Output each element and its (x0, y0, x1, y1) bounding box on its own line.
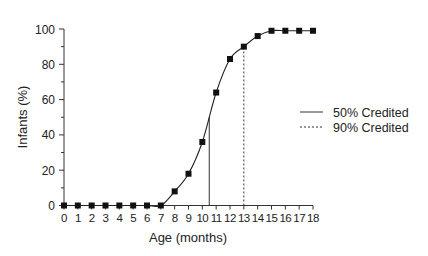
y-tick-label: 80 (42, 58, 56, 72)
x-tick-label: 0 (61, 212, 67, 224)
x-tick-label: 16 (279, 212, 291, 224)
data-marker (227, 56, 233, 62)
data-marker (116, 203, 122, 209)
y-tick-label: 60 (42, 93, 56, 107)
reference-lines (209, 47, 244, 206)
data-marker (158, 203, 164, 209)
data-marker (172, 188, 178, 194)
legend-label: 50% Credited (333, 106, 409, 120)
data-marker (89, 203, 95, 209)
y-tick-label: 20 (42, 164, 56, 178)
legend-label: 90% Credited (333, 121, 409, 135)
data-marker (310, 28, 316, 34)
x-tick-label: 11 (211, 212, 222, 224)
data-marker (144, 203, 150, 209)
data-marker (130, 203, 136, 209)
x-tick-label: 12 (224, 212, 236, 224)
data-marker (75, 203, 81, 209)
x-tick-label: 13 (238, 212, 250, 224)
x-tick-label: 4 (116, 212, 123, 224)
x-axis-label: Age (months) (149, 230, 227, 245)
data-marker (241, 44, 247, 50)
data-marker (296, 28, 302, 34)
y-tick-label: 40 (42, 128, 56, 142)
x-tick-label: 6 (144, 212, 150, 224)
data-marker (103, 203, 109, 209)
x-tick-label: 2 (89, 212, 95, 224)
chart: 0204060801000123456789101112131415161718… (0, 0, 428, 256)
data-series (61, 28, 316, 209)
x-tick-label: 5 (130, 212, 136, 224)
data-marker (255, 33, 261, 39)
data-marker (282, 28, 288, 34)
x-tick-label: 3 (103, 212, 109, 224)
x-tick-label: 17 (293, 212, 305, 224)
data-marker (199, 139, 205, 145)
x-tick-label: 9 (186, 212, 192, 224)
data-marker (61, 203, 67, 209)
data-marker (269, 28, 275, 34)
x-tick-label: 8 (172, 212, 178, 224)
x-tick-label: 15 (266, 212, 278, 224)
x-tick-label: 1 (75, 212, 81, 224)
x-tick-label: 14 (252, 212, 265, 224)
x-tick-label: 7 (158, 212, 164, 224)
series-line (64, 30, 313, 206)
y-axis-label: Infants (%) (15, 86, 30, 149)
y-tick-label: 100 (35, 23, 55, 37)
x-tick-label: 18 (307, 212, 319, 224)
x-tick-label: 10 (196, 212, 208, 224)
data-marker (186, 171, 192, 177)
y-tick-label: 0 (48, 199, 55, 213)
legend: 50% Credited90% Credited (300, 106, 409, 135)
data-marker (213, 90, 219, 96)
